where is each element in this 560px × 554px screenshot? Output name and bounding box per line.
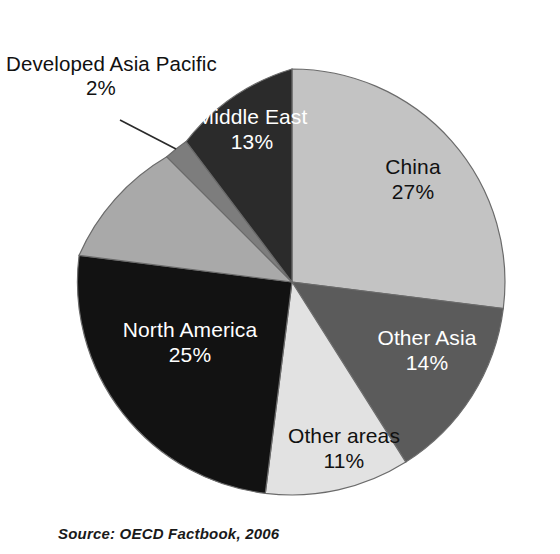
pie-slice-north-america[interactable]: [77, 255, 292, 493]
pie-label-developed-asia-pacific: Developed Asia Pacific 2%: [6, 52, 196, 100]
pie-label-other-asia-value: 14%: [352, 351, 502, 376]
pie-label-china: China 27%: [338, 155, 488, 205]
pie-label-middle-east: Middle East 13%: [168, 105, 336, 155]
pie-label-other-asia: Other Asia 14%: [352, 326, 502, 376]
pie-label-middle-east-name: Middle East: [168, 105, 336, 130]
pie-label-north-america: North America 25%: [92, 318, 288, 368]
pie-label-developed-asia-pacific-name: Developed Asia Pacific: [6, 52, 196, 76]
pie-label-developed-asia-pacific-value: 2%: [6, 76, 196, 100]
pie-label-north-america-name: North America: [92, 318, 288, 343]
pie-label-china-value: 27%: [338, 180, 488, 205]
pie-label-china-name: China: [338, 155, 488, 180]
pie-label-middle-east-value: 13%: [168, 130, 336, 155]
pie-label-other-areas-name: Other areas: [268, 424, 420, 449]
pie-label-other-areas-value: 11%: [268, 449, 420, 474]
pie-label-other-areas: Other areas 11%: [268, 424, 420, 474]
pie-chart-figure: China 27% Other Asia 14% Other areas 11%…: [0, 0, 560, 554]
source-note: Source: OECD Factbook, 2006: [58, 525, 279, 542]
pie-label-north-america-value: 25%: [92, 343, 288, 368]
pie-label-other-asia-name: Other Asia: [352, 326, 502, 351]
